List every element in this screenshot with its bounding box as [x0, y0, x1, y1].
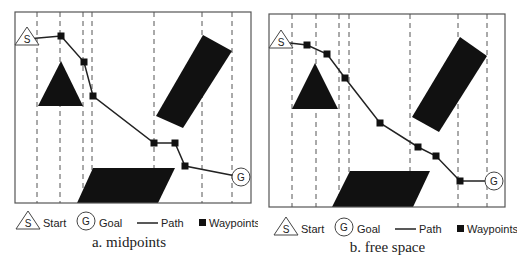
legend-start-text: Start	[301, 223, 324, 235]
diagram-free-space: SGSStartGGoalPathWaypoints	[258, 0, 517, 266]
parallelogram-obstacle	[77, 168, 175, 203]
rectangle-obstacle	[156, 35, 232, 128]
legend-goal-text: Goal	[357, 223, 380, 235]
waypoint-marker	[342, 75, 349, 82]
waypoint-marker	[172, 140, 179, 147]
legend-start-glyph: S	[283, 224, 290, 235]
goal-marker: G	[232, 168, 250, 186]
goal-label: G	[490, 176, 498, 187]
waypoint-marker	[151, 140, 158, 147]
legend-goal-text: Goal	[99, 217, 122, 229]
waypoint-marker	[58, 33, 65, 40]
legend-start-glyph: S	[25, 218, 32, 229]
triangle-obstacle	[38, 61, 83, 106]
waypoint-marker	[433, 153, 440, 160]
legend-goal-glyph: G	[82, 216, 90, 227]
legend-waypoint-square-icon	[199, 219, 206, 226]
legend-path-text: Path	[419, 223, 442, 235]
caption-midpoints: a. midpoints	[0, 234, 258, 251]
waypoint-marker	[182, 163, 189, 170]
waypoint-marker	[90, 93, 97, 100]
start-label: S	[278, 37, 285, 48]
panel-free-space: SGSStartGGoalPathWaypoints b. free space	[258, 0, 517, 266]
diagram-midpoints: SGSStartGGoalPathWaypoints	[0, 0, 258, 266]
legend-goal-glyph: G	[340, 222, 348, 233]
goal-label: G	[237, 172, 245, 183]
waypoint-marker	[324, 51, 331, 58]
legend-waypoints-text: Waypoints	[467, 223, 517, 235]
triangle-obstacle	[292, 63, 338, 109]
caption-free-space: b. free space	[258, 239, 517, 256]
goal-marker: G	[485, 172, 503, 190]
legend-waypoints-text: Waypoints	[209, 217, 258, 229]
parallelogram-obstacle	[332, 171, 430, 207]
legend-start-text: Start	[43, 217, 66, 229]
legend: SStartGGoalPathWaypoints	[16, 211, 258, 230]
panel-midpoints: SGSStartGGoalPathWaypoints a. midpoints	[0, 0, 258, 266]
waypoint-marker	[377, 120, 384, 127]
legend: SStartGGoalPathWaypoints	[274, 217, 517, 236]
rectangle-obstacle	[412, 37, 487, 132]
waypoint-marker	[415, 144, 422, 151]
start-marker: S	[15, 27, 39, 45]
waypoint-marker	[304, 42, 311, 49]
start-label: S	[24, 34, 31, 45]
waypoint-marker	[457, 178, 464, 185]
legend-path-text: Path	[161, 217, 184, 229]
waypoint-marker	[81, 59, 88, 66]
start-marker: S	[269, 30, 293, 48]
legend-waypoint-square-icon	[457, 225, 464, 232]
